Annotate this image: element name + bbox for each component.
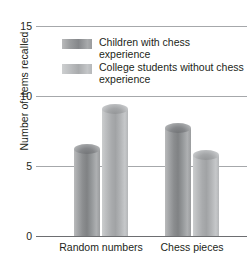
bar-body	[193, 155, 219, 236]
bar	[193, 150, 219, 236]
legend-swatch-icon-children	[62, 39, 92, 49]
bar	[102, 104, 128, 236]
y-tick-label-5: 5	[26, 160, 32, 172]
y-tick-label-0: 0	[26, 230, 32, 242]
legend: Children with chess experience College s…	[62, 37, 244, 87]
bar-body	[74, 149, 100, 236]
legend-item: College students without chess experienc…	[62, 62, 244, 85]
bar	[165, 123, 191, 236]
bar-body	[102, 109, 128, 236]
category-label-chess-pieces: Chess pieces	[160, 241, 223, 253]
bar-body	[165, 128, 191, 236]
bar	[74, 144, 100, 236]
legend-swatch-icon-college	[62, 64, 92, 74]
bar-chart: Number of items recalled 151050 Children…	[0, 0, 247, 257]
legend-item: Children with chess experience	[62, 37, 244, 60]
category-label-random-numbers: Random numbers	[59, 241, 142, 253]
y-tick-label-15: 15	[20, 20, 32, 32]
y-tick-label-10: 10	[20, 90, 32, 102]
legend-label-children: Children with chess experience	[99, 37, 244, 60]
bar-top-ellipse	[193, 150, 219, 160]
legend-label-college: College students without chess experienc…	[99, 62, 244, 85]
bar-top-ellipse	[102, 104, 128, 114]
